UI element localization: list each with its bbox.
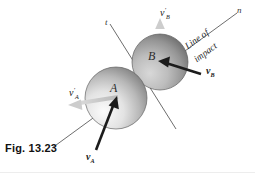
v-a-prime-label: v′A: [69, 87, 79, 101]
v-b-prime-subscript: B: [166, 13, 170, 20]
t-axis-label: t: [105, 18, 108, 27]
sphere-a-label: A: [110, 82, 117, 94]
v-b-label: vB: [206, 66, 215, 78]
v-a-label: vA: [86, 152, 95, 164]
figure-13-23: t n Line of impact A B v′A v′B vB vA Fig…: [0, 0, 255, 177]
v-a-prime-subscript: A: [75, 93, 79, 100]
v-b-prime-label: v′B: [160, 7, 170, 21]
v-a-subscript: A: [90, 157, 94, 164]
v-b-subscript: B: [210, 71, 214, 78]
figure-caption: Fig. 13.23: [5, 142, 57, 154]
n-axis-label: n: [237, 6, 242, 15]
sphere-b-label: B: [148, 50, 155, 62]
